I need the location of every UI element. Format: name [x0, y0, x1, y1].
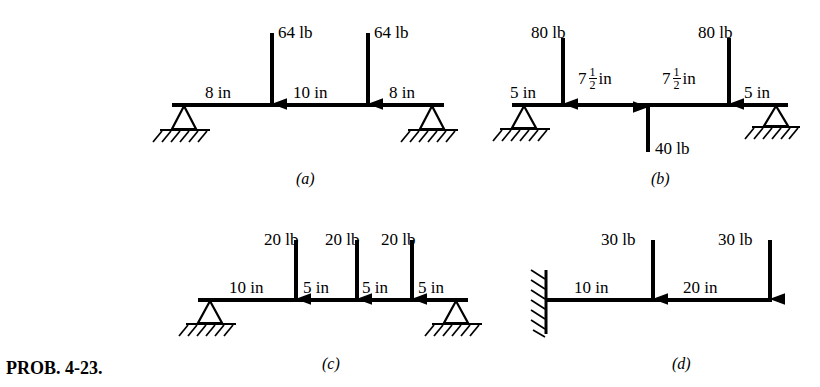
label-load-20-lb-first: 20 lb	[264, 231, 298, 248]
label-dim-20-in: 20 in	[683, 279, 717, 296]
dim-unit: in	[683, 70, 696, 87]
problem-label: PROB. 4-23.	[6, 358, 103, 379]
fraction-denominator: 2	[589, 78, 597, 91]
beam-diagrams-canvas	[0, 0, 820, 387]
label-load-64-lb-left: 64 lb	[278, 24, 312, 41]
support-b-left	[493, 106, 550, 141]
support-c-left	[179, 301, 236, 336]
caption-figure-b: (b)	[651, 170, 670, 188]
label-dim-5-in-third: 5 in	[418, 279, 444, 296]
caption-figure-a: (a)	[296, 170, 315, 188]
label-load-40-lb-center: 40 lb	[655, 140, 689, 157]
support-a-left	[153, 106, 210, 142]
label-dim-10-in: 10 in	[229, 279, 263, 296]
fraction-denominator: 2	[673, 78, 681, 91]
label-dim-5-in-left: 5 in	[510, 84, 536, 101]
fraction-one-half: 1 2	[589, 66, 597, 91]
caption-figure-d: (d)	[672, 355, 691, 373]
dim-whole-number: 7	[662, 70, 671, 87]
caption-figure-c: (c)	[322, 355, 340, 373]
label-load-20-lb-second: 20 lb	[325, 231, 359, 248]
dim-whole-number: 7	[578, 70, 587, 87]
label-load-80-lb-left: 80 lb	[531, 24, 565, 41]
fraction-numerator: 1	[673, 66, 681, 78]
label-dim-8-in-left: 8 in	[205, 84, 231, 101]
fraction-numerator: 1	[589, 66, 597, 78]
fraction-one-half: 1 2	[673, 66, 681, 91]
label-load-20-lb-third: 20 lb	[381, 231, 415, 248]
label-dim-8-in-right: 8 in	[389, 84, 415, 101]
label-dim-7-half-in-left: 7 1 2 in	[578, 66, 612, 91]
figure-d-group	[531, 240, 772, 337]
support-d-fixed-wall	[531, 270, 546, 337]
label-dim-5-in-first: 5 in	[303, 279, 329, 296]
support-a-right	[401, 106, 458, 142]
problem-figure-4-23: 64 lb 64 lb 8 in 10 in 8 in (a) 80 lb 80…	[0, 0, 820, 387]
label-dim-10-in-middle: 10 in	[293, 84, 327, 101]
label-load-80-lb-right: 80 lb	[698, 24, 732, 41]
label-dim-5-in-second: 5 in	[362, 279, 388, 296]
support-c-right	[425, 301, 482, 336]
dim-unit: in	[599, 70, 612, 87]
label-dim-10-in: 10 in	[574, 279, 608, 296]
label-load-30-lb-middle: 30 lb	[601, 231, 635, 248]
label-dim-5-in-right: 5 in	[744, 84, 770, 101]
label-load-64-lb-right: 64 lb	[374, 24, 408, 41]
label-load-30-lb-end: 30 lb	[718, 231, 752, 248]
label-dim-7-half-in-right: 7 1 2 in	[662, 66, 696, 91]
support-b-right	[745, 106, 800, 139]
